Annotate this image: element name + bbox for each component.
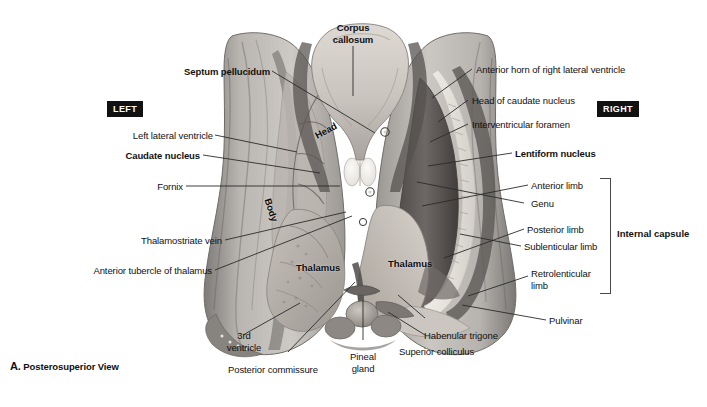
label-pineal-gland-line1: Pineal [350, 351, 376, 362]
label-3rd-ventricle-line1: 3rd [237, 330, 250, 341]
label-caudate-nucleus: Caudate nucleus [45, 150, 200, 162]
label-habenular-trigone: Habenular trigone [424, 330, 498, 342]
label-thalamus-right-on-specimen: Thalamus [388, 258, 432, 269]
label-genu: Genu [531, 198, 554, 210]
figure-canvas: Corpus callosum LEFT RIGHT Septum pelluc… [0, 0, 707, 407]
badge-left: LEFT [107, 101, 143, 117]
caption-text: Posterosuperior View [21, 361, 119, 372]
label-interventricular-foramen: Interventricular foramen [472, 119, 570, 131]
label-retrolenticular-limb-line1: Retrolenticular [531, 268, 591, 280]
label-anterior-limb: Anterior limb [531, 180, 583, 192]
label-pineal-gland-line2: gland [352, 363, 375, 374]
label-retrolenticular-limb-line2: limb [531, 280, 548, 292]
badge-right: RIGHT [597, 101, 639, 117]
label-pulvinar: Pulvinar [549, 315, 583, 327]
label-posterior-commissure: Posterior commissure [228, 364, 318, 376]
label-head-of-caudate-nucleus: Head of caudate nucleus [472, 95, 575, 107]
label-internal-capsule: Internal capsule [617, 228, 689, 239]
label-corpus-callosum: Corpus callosum [318, 22, 388, 45]
label-thalamus-left-on-specimen: Thalamus [296, 262, 340, 273]
label-3rd-ventricle-line2: ventricle [227, 342, 261, 353]
label-pineal-gland: Pineal gland [340, 351, 386, 374]
label-septum-pellucidum: Septum pellucidum [60, 66, 270, 78]
label-corpus-callosum-line1: Corpus [337, 22, 370, 33]
label-superior-colliculus: Superior colliculus [399, 346, 474, 358]
caption-letter: A. [10, 360, 21, 372]
label-corpus-callosum-line2: callosum [333, 34, 373, 45]
label-thalamostriate-vein: Thalamostriate vein [45, 235, 222, 247]
label-3rd-ventricle: 3rd ventricle [215, 330, 273, 353]
label-anterior-horn-of-right-lateral-ventricle: Anterior horn of right lateral ventricle [476, 64, 625, 76]
internal-capsule-bracket [600, 178, 611, 294]
label-left-lateral-ventricle: Left lateral ventricle [45, 130, 213, 142]
label-sublenticular-limb: Sublenticular limb [524, 241, 597, 253]
figure-caption: A. Posterosuperior View [10, 360, 119, 372]
label-fornix: Fornix [45, 181, 183, 193]
label-posterior-limb: Posterior limb [527, 224, 584, 236]
label-anterior-tubercle-of-thalamus: Anterior tubercle of thalamus [25, 265, 212, 277]
label-lentiform-nucleus: Lentiform nucleus [515, 148, 596, 160]
